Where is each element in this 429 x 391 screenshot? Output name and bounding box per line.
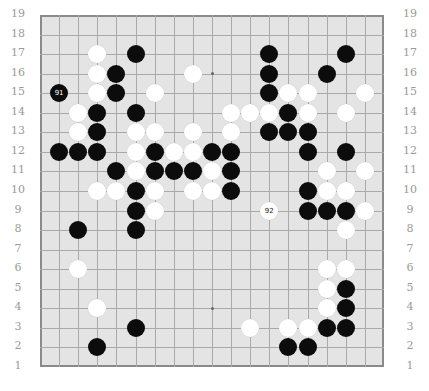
black-stone <box>127 45 145 63</box>
white-stone <box>222 104 240 122</box>
black-stone <box>127 104 145 122</box>
white-stone <box>337 182 355 200</box>
black-stone <box>337 280 355 298</box>
row-label-left: 11 <box>8 163 28 176</box>
black-stone <box>337 319 355 337</box>
black-stone <box>146 143 164 161</box>
white-stone <box>318 280 336 298</box>
row-label-right: 5 <box>400 281 420 294</box>
grid-line-vertical <box>365 15 366 367</box>
grid-line-vertical <box>250 15 251 367</box>
black-stone <box>203 143 221 161</box>
white-stone <box>241 104 259 122</box>
row-label-left: 13 <box>8 124 28 137</box>
row-label-left: 14 <box>8 105 28 118</box>
black-stone <box>299 143 317 161</box>
row-label-right: 2 <box>400 339 420 352</box>
black-stone <box>260 65 278 83</box>
row-label-left: 7 <box>8 242 28 255</box>
black-stone <box>107 65 125 83</box>
black-stone <box>222 143 240 161</box>
row-label-right: 13 <box>400 124 420 137</box>
row-label-left: 4 <box>8 300 28 313</box>
grid-line-horizontal <box>40 35 384 36</box>
row-label-left: 16 <box>8 66 28 79</box>
row-label-right: 8 <box>400 222 420 235</box>
white-stone <box>184 65 202 83</box>
white-stone <box>260 104 278 122</box>
row-label-left: 1 <box>8 359 28 372</box>
row-label-right: 6 <box>400 261 420 274</box>
row-label-right: 10 <box>400 183 420 196</box>
row-label-right: 15 <box>400 85 420 98</box>
row-label-left: 5 <box>8 281 28 294</box>
row-label-right: 16 <box>400 66 420 79</box>
white-stone <box>299 319 317 337</box>
black-stone <box>299 202 317 220</box>
row-label-right: 11 <box>400 163 420 176</box>
row-label-left: 17 <box>8 46 28 59</box>
black-stone <box>50 143 68 161</box>
black-stone <box>299 182 317 200</box>
black-stone <box>127 221 145 239</box>
black-stone <box>222 182 240 200</box>
white-stone <box>318 182 336 200</box>
row-label-left: 15 <box>8 85 28 98</box>
white-stone <box>299 104 317 122</box>
white-stone <box>184 143 202 161</box>
white-stone <box>127 123 145 141</box>
white-stone <box>356 202 374 220</box>
black-stone <box>69 143 87 161</box>
white-stone <box>318 162 336 180</box>
row-label-right: 9 <box>400 203 420 216</box>
white-stone <box>203 182 221 200</box>
white-stone <box>127 162 145 180</box>
white-stone <box>88 65 106 83</box>
white-stone <box>127 143 145 161</box>
row-label-left: 19 <box>8 7 28 20</box>
star-point <box>211 72 214 75</box>
row-label-left: 6 <box>8 261 28 274</box>
white-stone <box>146 84 164 102</box>
black-stone <box>337 299 355 317</box>
row-label-right: 7 <box>400 242 420 255</box>
row-label-right: 19 <box>400 7 420 20</box>
black-stone <box>299 123 317 141</box>
white-stone <box>318 260 336 278</box>
black-stone <box>146 162 164 180</box>
white-stone-move-92: 92 <box>260 202 278 220</box>
white-stone <box>146 123 164 141</box>
star-point <box>211 307 214 310</box>
black-stone <box>299 338 317 356</box>
row-label-left: 9 <box>8 203 28 216</box>
black-stone <box>318 319 336 337</box>
row-label-left: 2 <box>8 339 28 352</box>
black-stone <box>127 319 145 337</box>
white-stone <box>184 182 202 200</box>
black-stone <box>127 182 145 200</box>
white-stone <box>165 143 183 161</box>
row-label-left: 12 <box>8 144 28 157</box>
row-label-right: 3 <box>400 320 420 333</box>
white-stone <box>241 319 259 337</box>
black-stone <box>337 202 355 220</box>
black-stone <box>127 202 145 220</box>
row-label-right: 12 <box>400 144 420 157</box>
row-label-right: 4 <box>400 300 420 313</box>
black-stone <box>337 143 355 161</box>
white-stone <box>299 84 317 102</box>
row-label-left: 8 <box>8 222 28 235</box>
grid-line-vertical <box>288 15 289 367</box>
row-label-right: 1 <box>400 359 420 372</box>
white-stone <box>146 202 164 220</box>
black-stone <box>318 65 336 83</box>
black-stone <box>337 45 355 63</box>
white-stone <box>337 260 355 278</box>
white-stone <box>337 221 355 239</box>
row-label-right: 17 <box>400 46 420 59</box>
row-label-right: 14 <box>400 105 420 118</box>
white-stone <box>69 104 87 122</box>
row-label-left: 10 <box>8 183 28 196</box>
white-stone <box>146 182 164 200</box>
black-stone <box>318 202 336 220</box>
